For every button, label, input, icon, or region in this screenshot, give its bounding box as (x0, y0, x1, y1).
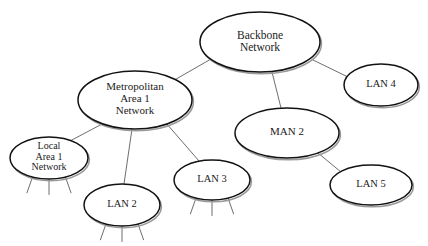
edge-backbone-to-man1 (171, 59, 211, 82)
edge-backbone-to-lan4 (313, 60, 348, 77)
node-local1[interactable] (10, 137, 88, 179)
node-lan3[interactable] (174, 160, 250, 200)
terminal-stub-lan2-1 (100, 224, 106, 240)
network-diagram-svg (0, 0, 428, 246)
node-lan4[interactable] (344, 64, 418, 106)
node-shape-layer (10, 12, 419, 228)
network-diagram: BackboneNetworkMetropolitanArea 1Network… (0, 0, 428, 246)
node-lan5[interactable] (330, 165, 412, 205)
edge-man1-to-lan3 (166, 123, 199, 161)
edge-backbone-to-man2 (272, 72, 281, 108)
node-man1[interactable] (78, 71, 192, 129)
edge-man2-to-lan5 (318, 153, 341, 172)
node-lan2[interactable] (84, 184, 160, 226)
edge-man1-to-local1 (70, 123, 104, 141)
edge-man1-to-lan2 (124, 129, 132, 184)
node-backbone[interactable] (200, 12, 320, 72)
node-man2[interactable] (235, 108, 339, 158)
